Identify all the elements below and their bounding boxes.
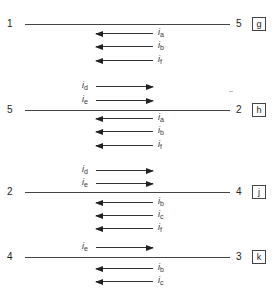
current-arrow-left — [96, 145, 153, 146]
left-node-label: 1 — [7, 19, 13, 29]
current-arrow-left — [96, 202, 153, 203]
current-label: ib — [158, 125, 164, 138]
block-box-label: j — [252, 185, 266, 199]
left-node-label: 4 — [7, 252, 13, 262]
current-label: if — [158, 139, 162, 152]
bus-line — [25, 192, 230, 193]
block-box-label: k — [252, 250, 266, 264]
current-subscript: d — [84, 168, 88, 175]
current-subscript: c — [160, 279, 164, 286]
current-subscript: e — [84, 98, 88, 105]
current-subscript: b — [160, 200, 164, 207]
current-label: ie — [82, 177, 88, 190]
left-node-label: 5 — [7, 105, 13, 115]
current-label: ic — [158, 275, 164, 288]
current-subscript: b — [160, 44, 164, 51]
current-label: ie — [82, 241, 88, 254]
current-subscript: f — [160, 226, 162, 233]
current-subscript: a — [160, 116, 164, 123]
current-label: id — [82, 164, 88, 177]
current-subscript: b — [160, 129, 164, 136]
current-flow-diagram: 15giaibif52hidieiaibif24jidieibicif43kie… — [0, 0, 279, 300]
right-node-label: 3 — [236, 252, 242, 262]
current-arrow-right — [96, 100, 153, 101]
current-label: id — [82, 80, 88, 93]
current-label: ia — [158, 112, 164, 125]
current-label: ib — [158, 196, 164, 209]
current-arrow-left — [96, 268, 153, 269]
current-arrow-left — [96, 60, 153, 61]
current-label: ib — [158, 40, 164, 53]
current-subscript: a — [160, 31, 164, 38]
current-subscript: e — [84, 181, 88, 188]
current-label: if — [158, 222, 162, 235]
bus-line — [25, 24, 230, 25]
current-arrow-right — [96, 183, 153, 184]
bus-line — [25, 110, 230, 111]
right-node-label: 4 — [236, 187, 242, 197]
current-subscript: e — [84, 245, 88, 252]
current-arrow-right — [96, 247, 153, 248]
right-node-label: 5 — [236, 19, 242, 29]
current-arrow-left — [96, 228, 153, 229]
current-label: if — [158, 54, 162, 67]
current-arrow-left — [96, 46, 153, 47]
current-arrow-right — [96, 86, 153, 87]
right-node-label: 2 — [236, 105, 242, 115]
current-label: ib — [158, 262, 164, 275]
block-box-label: g — [252, 17, 266, 31]
current-subscript: f — [160, 58, 162, 65]
current-arrow-left — [96, 131, 153, 132]
current-arrow-left — [96, 33, 153, 34]
current-subscript: d — [84, 84, 88, 91]
current-arrow-left — [96, 118, 153, 119]
current-arrow-left — [96, 281, 153, 282]
current-label: ie — [82, 94, 88, 107]
current-subscript: f — [160, 143, 162, 150]
bus-line — [25, 257, 230, 258]
current-subscript: c — [160, 213, 164, 220]
current-label: ia — [158, 27, 164, 40]
stray-mark — [229, 91, 233, 92]
left-node-label: 2 — [7, 187, 13, 197]
current-arrow-right — [96, 170, 153, 171]
current-arrow-left — [96, 215, 153, 216]
block-box-label: h — [252, 103, 266, 117]
current-label: ic — [158, 209, 164, 222]
current-subscript: b — [160, 266, 164, 273]
